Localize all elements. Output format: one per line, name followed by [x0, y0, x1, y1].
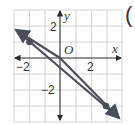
y-tick-label: 2 [50, 20, 57, 34]
data-point [103, 103, 110, 110]
x-tick-label: 2 [87, 60, 94, 74]
x-tick-label: −2 [16, 60, 30, 74]
x-axis-label: x [111, 41, 118, 56]
data-point [26, 39, 33, 46]
y-axis-label: y [62, 8, 70, 23]
coordinate-graph: y x O −2 2 2 −2 [0, 0, 135, 125]
part-marker: ( [125, 2, 132, 28]
y-tick-label: −2 [41, 83, 55, 97]
origin-label: O [64, 42, 74, 57]
